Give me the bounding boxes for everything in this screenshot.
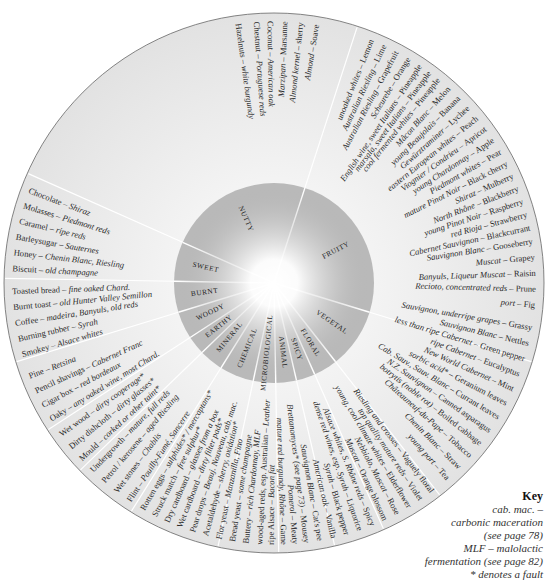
key-line: (see page 78) <box>425 529 543 542</box>
key-line: * denotes a fault <box>425 568 543 581</box>
key-title: Key <box>425 490 543 503</box>
key-line: carbonic maceration <box>425 516 543 529</box>
inner-ring <box>174 183 374 383</box>
key-line: MLF – malolactic <box>425 542 543 555</box>
key-legend: Key cab. mac. – carbonic maceration (see… <box>425 490 543 581</box>
center-glow <box>179 188 369 378</box>
key-line: cab. mac. – <box>425 503 543 516</box>
key-line: fermentation (see page 82) <box>425 555 543 568</box>
